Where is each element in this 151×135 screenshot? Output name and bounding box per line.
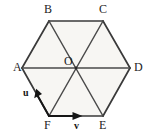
vertex-label-A: A [13,61,22,73]
vertex-label-B: B [44,3,52,15]
hexagon-diagram: A B C D E F O u v [0,0,151,135]
center-point-O [75,67,78,70]
vertex-label-F: F [44,119,51,131]
hexagon-figure [0,0,151,135]
vertex-label-E: E [99,119,106,131]
vertex-label-O: O [64,55,73,67]
vector-label-v: v [74,121,79,131]
vertex-label-D: D [134,61,143,73]
vector-label-u: u [23,88,29,98]
vertex-label-C: C [99,3,107,15]
